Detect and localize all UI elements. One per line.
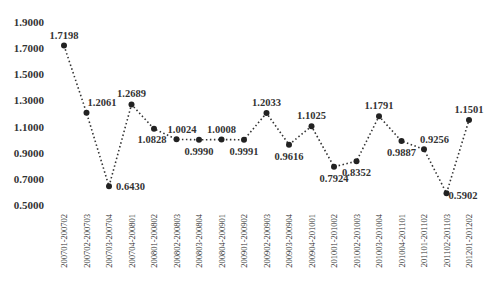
y-tick-label: 0.9000 xyxy=(14,147,45,159)
data-point-marker xyxy=(309,123,315,129)
data-point-marker xyxy=(106,183,112,189)
y-tick-label: 0.5000 xyxy=(14,199,45,211)
y-tick-label: 0.7000 xyxy=(14,173,45,185)
x-tick-label: 200703-200704 xyxy=(104,213,114,268)
x-tick-label: 200902-200903 xyxy=(262,214,272,268)
data-value-label: 0.5902 xyxy=(449,190,478,201)
data-point-marker xyxy=(331,164,337,170)
data-value-label: 1.2033 xyxy=(252,97,281,108)
x-tick-label: 200903-200904 xyxy=(284,213,294,268)
data-point-marker xyxy=(219,137,225,143)
y-axis-ticks: 0.50000.70000.90001.10001.30001.50001.70… xyxy=(14,16,45,211)
y-tick-label: 1.9000 xyxy=(14,16,45,28)
x-tick-label: 200803-200804 xyxy=(194,213,204,268)
data-point-marker xyxy=(376,113,382,119)
x-tick-label: 200704-200801 xyxy=(127,214,137,268)
x-tick-label: 200801-200802 xyxy=(149,214,159,268)
line-chart: 0.50000.70000.90001.10001.30001.50001.70… xyxy=(0,0,488,284)
data-value-label: 0.8352 xyxy=(342,167,371,178)
x-tick-label: 201003-201004 xyxy=(374,213,384,268)
data-value-label: 1.1791 xyxy=(365,100,394,111)
data-point-marker xyxy=(421,146,427,152)
x-tick-label: 200901-200902 xyxy=(239,214,249,268)
x-tick-label: 201102-201103 xyxy=(442,214,452,267)
data-value-label: 0.6430 xyxy=(116,181,145,192)
y-tick-label: 1.3000 xyxy=(14,94,45,106)
data-value-label: 0.9256 xyxy=(420,134,449,145)
data-value-label: 1.0008 xyxy=(207,124,236,135)
x-axis-ticks: 200701-200702200702-200703200703-2007042… xyxy=(59,213,474,268)
data-point-marker xyxy=(466,117,472,123)
data-value-label: 1.7198 xyxy=(50,30,79,41)
data-value-label: 0.9616 xyxy=(275,151,304,162)
data-value-label: 1.2061 xyxy=(88,97,117,108)
x-tick-label: 201201-201202 xyxy=(464,214,474,268)
data-point-marker xyxy=(196,137,202,143)
x-tick-label: 201004-201101 xyxy=(397,214,407,268)
y-tick-label: 1.1000 xyxy=(14,121,45,133)
data-value-label: 1.0828 xyxy=(138,134,167,145)
data-points xyxy=(61,43,472,197)
data-point-marker xyxy=(399,138,405,144)
data-value-label: 1.0024 xyxy=(168,124,198,135)
data-point-marker xyxy=(129,101,135,107)
data-point-marker xyxy=(84,110,90,116)
x-tick-label: 200702-200703 xyxy=(82,214,92,268)
series-line xyxy=(64,46,469,194)
data-value-label: 1.1025 xyxy=(297,110,326,121)
data-value-label: 0.9991 xyxy=(230,146,259,157)
y-tick-label: 1.5000 xyxy=(14,68,45,80)
y-tick-label: 1.7000 xyxy=(14,42,45,54)
data-value-label: 1.1501 xyxy=(455,104,484,115)
data-point-marker xyxy=(354,158,360,164)
data-point-marker xyxy=(61,43,67,49)
x-tick-label: 200802-200803 xyxy=(172,214,182,268)
x-tick-label: 200701-200702 xyxy=(59,214,69,268)
data-point-marker xyxy=(174,136,180,142)
x-tick-label: 201101-201102 xyxy=(419,214,429,267)
data-value-label: 0.9887 xyxy=(387,147,416,158)
data-point-marker xyxy=(151,126,157,132)
data-point-marker xyxy=(264,110,270,116)
x-tick-label: 201002-201003 xyxy=(352,214,362,268)
x-tick-label: 200904-201001 xyxy=(307,214,317,268)
data-value-label: 0.9990 xyxy=(185,146,214,157)
data-point-marker xyxy=(286,142,292,148)
x-tick-label: 200804-200901 xyxy=(217,214,227,268)
x-tick-label: 201001-201002 xyxy=(329,214,339,268)
data-point-marker xyxy=(241,137,247,143)
data-value-label: 1.2689 xyxy=(117,88,146,99)
